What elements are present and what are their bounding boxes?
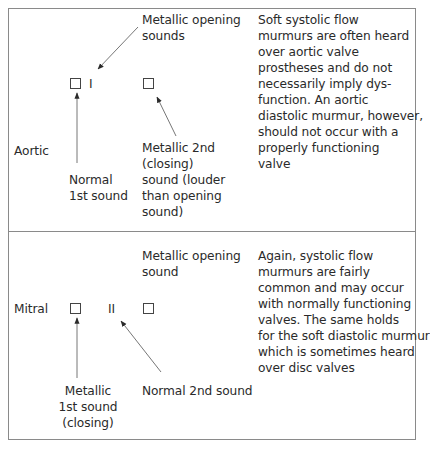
aortic-opening-annotation: Metallic opening sounds [142, 12, 241, 44]
mitral-first-sound-box [70, 303, 81, 314]
aortic-first-sound-box [70, 78, 81, 89]
aortic-description: Soft systolic flow murmurs are often hea… [258, 12, 423, 172]
mitral-valve-label: Mitral [14, 301, 48, 317]
mitral-opening-sound-box [143, 303, 154, 314]
row-divider [8, 231, 416, 232]
aortic-first-sound-annotation: Normal 1st sound [69, 172, 128, 204]
aortic-second-sound-box [143, 78, 154, 89]
aortic-second-sound-annotation: Metallic 2nd (closing) sound (louder tha… [142, 140, 225, 220]
aortic-marker-label: I [89, 76, 93, 92]
mitral-marker-label: II [108, 301, 115, 317]
mitral-description: Again, systolic flow murmurs are fairly … [258, 248, 430, 376]
mitral-first-sound-annotation: Metallic 1st sound (closing) [54, 383, 122, 431]
aortic-valve-label: Aortic [14, 143, 49, 159]
mitral-opening-annotation: Metallic opening sound [142, 248, 241, 280]
mitral-second-sound-annotation: Normal 2nd sound [142, 383, 252, 399]
